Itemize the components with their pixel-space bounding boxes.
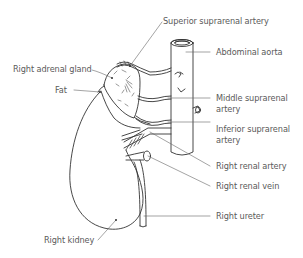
label-right-adrenal-gland: Right adrenal gland [13, 64, 92, 74]
label-inferior-suprarenal-artery-line2: artery [216, 135, 240, 145]
label-right-ureter: Right ureter [216, 211, 264, 221]
label-right-renal-artery: Right renal artery [216, 161, 287, 171]
label-middle-suprarenal-artery-line2: artery [216, 104, 240, 114]
label-right-renal-vein: Right renal vein [216, 181, 279, 191]
label-abdominal-aorta: Abdominal aorta [216, 47, 282, 57]
label-inferior-suprarenal-artery-line1: Inferior suprarenal [216, 124, 290, 134]
aorta-shape [171, 40, 201, 156]
label-right-kidney: Right kidney [44, 235, 94, 245]
label-middle-suprarenal-artery-line1: Middle suprarenal [216, 93, 288, 103]
label-superior-suprarenal-artery: Superior suprarenal artery [163, 16, 269, 26]
label-fat: Fat [55, 85, 67, 95]
anatomy-diagram: Superior suprarenal artery Abdominal aor… [0, 0, 303, 258]
